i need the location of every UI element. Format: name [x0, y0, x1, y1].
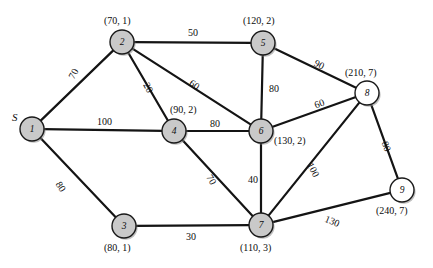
node-annotation-6: (130, 2) [274, 136, 306, 146]
edge-weight-label: 30 [186, 232, 196, 242]
node-annotation-7: (110, 3) [240, 243, 271, 253]
node-annotation-4: (90, 2) [170, 105, 197, 115]
node-id-label-4: 4 [172, 126, 177, 136]
graph-edge [261, 54, 263, 120]
graph-svg: 123456789 [0, 0, 433, 268]
graph-edge [133, 42, 252, 43]
graph-diagram-canvas: 123456789 701008050206080908060407030100… [0, 0, 433, 268]
node-id-label-5: 5 [261, 38, 266, 48]
node-id-label-1: 1 [30, 124, 35, 134]
source-node-marker: S [12, 112, 18, 123]
node-id-label-3: 3 [121, 221, 127, 231]
graph-edge [40, 50, 114, 122]
graph-edge [40, 137, 117, 218]
node-id-label-6: 6 [259, 126, 264, 136]
graph-edge [43, 129, 163, 131]
graph-edge [268, 102, 360, 217]
graph-edge [135, 225, 250, 226]
node-id-label-8: 8 [365, 88, 370, 98]
node-annotation-5: (120, 2) [243, 16, 275, 26]
edge-weight-label: 40 [248, 175, 258, 185]
node-annotation-2: (70, 1) [104, 16, 131, 26]
edge-weight-label: 50 [188, 28, 198, 38]
node-annotation-9: (240, 7) [376, 206, 408, 216]
edge-weight-label: 80 [269, 84, 279, 94]
node-annotation-3: (80, 1) [104, 243, 131, 253]
edge-weight-label: 100 [97, 117, 112, 127]
nodes-layer: 123456789 [20, 30, 416, 240]
node-annotation-8: (210, 7) [345, 68, 377, 78]
edge-weight-label: 80 [210, 119, 220, 129]
node-id-label-2: 2 [120, 37, 125, 47]
node-id-label-9: 9 [400, 185, 405, 195]
